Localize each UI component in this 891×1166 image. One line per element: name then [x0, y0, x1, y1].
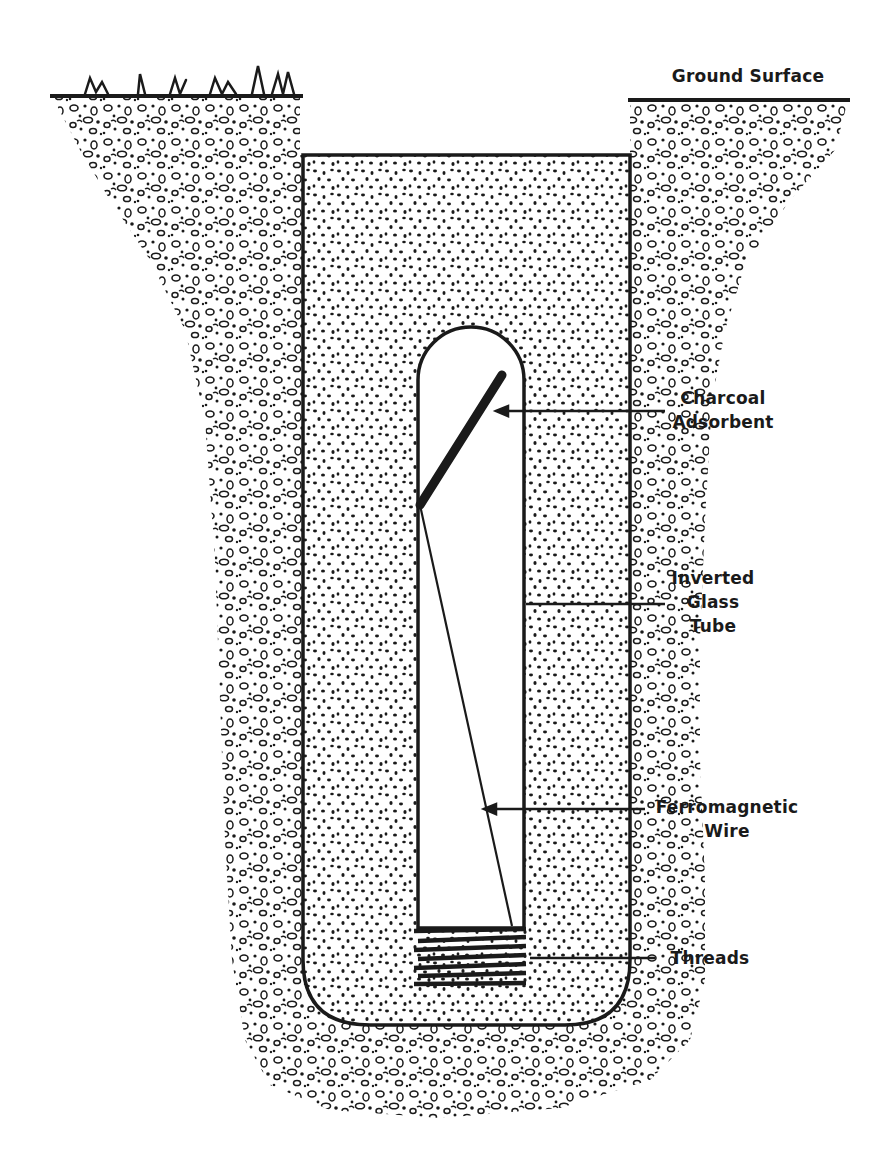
label-threads: Threads [660, 946, 760, 970]
label-ground-surface: Ground Surface [638, 64, 858, 88]
label-ferromagnetic-wire: Ferromagnetic Wire [652, 795, 802, 843]
diagram-canvas: Ground Surface Charcoal Adsorbent Invert… [0, 0, 891, 1166]
label-charcoal-adsorbent: Charcoal Adsorbent [668, 386, 778, 434]
label-text: Ferromagnetic [652, 795, 802, 819]
label-text: Threads [660, 946, 760, 970]
label-text: Tube [668, 614, 758, 638]
label-text: Adsorbent [668, 410, 778, 434]
label-inverted-glass-tube: Inverted Glass Tube [668, 566, 758, 638]
grass-icon [85, 66, 294, 94]
label-text: Ground Surface [638, 64, 858, 88]
label-text: Wire [652, 819, 802, 843]
label-text: Inverted [668, 566, 758, 590]
label-text: Charcoal [668, 386, 778, 410]
label-text: Glass [668, 590, 758, 614]
